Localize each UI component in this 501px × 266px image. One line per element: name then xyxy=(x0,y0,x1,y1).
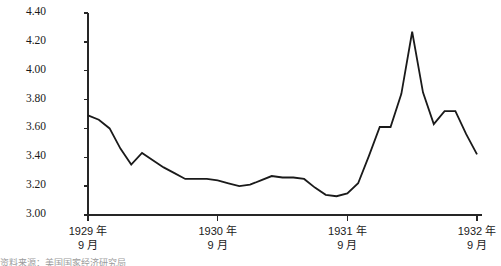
y-axis-tick-label: 3.60 xyxy=(0,120,46,132)
y-axis-tick-label: 3.00 xyxy=(0,207,46,219)
y-axis-tick-label: 4.20 xyxy=(0,34,46,46)
chart-tick-marks xyxy=(84,13,477,221)
y-axis-tick-label: 4.40 xyxy=(0,5,46,17)
x-axis-tick-label: 1931 年9 月 xyxy=(297,224,397,252)
x-tick-year: 1931 年 xyxy=(328,225,367,237)
x-axis-tick-label: 1930 年9 月 xyxy=(168,224,268,252)
chart-data-series xyxy=(88,32,477,196)
x-tick-month: 9 月 xyxy=(38,238,138,252)
y-axis-tick-label: 3.80 xyxy=(0,92,46,104)
x-axis-tick-label: 1929 年9 月 xyxy=(38,224,138,252)
y-axis-tick-label: 4.00 xyxy=(0,63,46,75)
x-tick-year: 1929 年 xyxy=(69,225,108,237)
x-axis-tick-label: 1932 年9 月 xyxy=(427,224,501,252)
y-axis-tick-label: 3.20 xyxy=(0,178,46,190)
x-tick-year: 1932 年 xyxy=(458,225,497,237)
x-tick-month: 9 月 xyxy=(168,238,268,252)
x-tick-month: 9 月 xyxy=(427,238,501,252)
x-tick-year: 1930 年 xyxy=(198,225,237,237)
chart-axes xyxy=(88,13,482,215)
source-caption: 资料来源：美国国家经济研究局 xyxy=(0,256,300,266)
series-line xyxy=(88,32,477,196)
y-axis-tick-label: 3.40 xyxy=(0,149,46,161)
x-tick-month: 9 月 xyxy=(297,238,397,252)
